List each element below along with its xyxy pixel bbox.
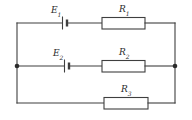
resistor-r1-label-text: R	[119, 4, 126, 14]
battery-e2-label-text: E	[53, 48, 60, 58]
resistor-r1-label: R1	[119, 5, 130, 14]
resistor-r3-body	[104, 98, 148, 110]
circuit-schematic-svg	[0, 0, 192, 120]
battery-e1-label: E1	[51, 6, 61, 15]
right-junction-node	[173, 64, 178, 69]
resistor-r3-label: R3	[121, 85, 132, 94]
circuit-diagram: E1 R1 E2 R2 R3	[0, 0, 192, 120]
resistor-r3-label-text: R	[121, 84, 128, 94]
battery-e2-label-sub: 2	[60, 54, 64, 61]
left-junction-node	[15, 64, 20, 69]
resistor-r1-body	[102, 18, 145, 30]
battery-e1-label-sub: 1	[58, 11, 62, 18]
resistor-r2-label: R2	[119, 48, 130, 57]
battery-e2-label: E2	[53, 49, 63, 58]
resistor-r2-label-sub: 2	[126, 53, 130, 60]
resistor-r2-label-text: R	[119, 47, 126, 57]
resistor-r2-body	[102, 61, 145, 73]
resistor-r1-label-sub: 1	[126, 10, 130, 17]
battery-e1-label-text: E	[51, 5, 58, 15]
resistor-r3-label-sub: 3	[128, 90, 132, 97]
